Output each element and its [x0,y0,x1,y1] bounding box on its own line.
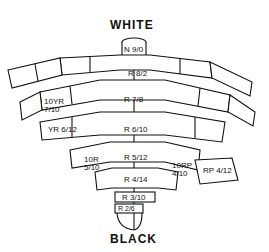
label-r7: R 7/8 [124,96,143,104]
label-r5: R 5/12 [124,154,148,162]
white-label: WHITE [110,18,154,32]
label-r8: R 8/2 [128,70,147,78]
label-10rp: 10RP 4/10 [172,162,194,178]
label-r6: R 6/10 [124,126,148,134]
label-r3: R 3/10 [122,194,146,202]
munsell-color-solid-diagram: WHITE BLACK N 9/0 R 8/2 R 7/8 10YR 7/10 … [0,0,269,252]
label-10r: 10R 5/10 [84,156,104,172]
label-n9: N 9/0 [124,46,143,54]
black-label: BLACK [110,232,157,246]
label-yr6: YR 6/12 [48,126,77,134]
label-10yr: 10YR 7/10 [44,98,66,114]
label-r2: R 2/6 [118,205,135,213]
label-r4: R 4/14 [124,176,148,184]
label-rp4: RP 4/12 [203,167,232,175]
